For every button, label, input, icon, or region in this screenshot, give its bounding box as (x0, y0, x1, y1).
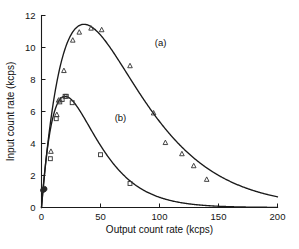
data-point-square (48, 157, 52, 161)
data-point-triangle (180, 151, 185, 155)
data-point-triangle (62, 68, 67, 72)
x-axis-title: Output count rate (kcps) (106, 224, 213, 235)
x-tick-label: 200 (270, 211, 286, 222)
chart-figure: 050100150200 024681012 (a)(b) Output cou… (0, 0, 299, 249)
x-tick-label: 100 (152, 211, 168, 222)
y-tick-labels: 024681012 (25, 10, 36, 213)
data-point-triangle (128, 63, 133, 67)
data-point-triangle (49, 149, 54, 153)
data-markers (41, 26, 209, 193)
data-point-triangle (55, 112, 60, 116)
plot-canvas: 050100150200 024681012 (a)(b) Output cou… (0, 0, 299, 249)
x-tick-label: 50 (95, 211, 106, 222)
data-point-triangle (99, 27, 104, 31)
curve-b (42, 96, 278, 207)
series-label-b: (b) (115, 112, 127, 123)
data-point-triangle (77, 30, 82, 34)
y-tick-label: 8 (30, 74, 35, 85)
series-annotations: (a)(b) (115, 37, 167, 123)
x-tick-label: 150 (211, 211, 227, 222)
data-point-triangle (191, 163, 196, 167)
x-tick-labels: 050100150200 (39, 211, 286, 222)
data-point-triangle (70, 38, 75, 42)
data-point-triangle (204, 177, 209, 181)
y-tick-label: 0 (30, 202, 35, 213)
fitted-curves (42, 24, 278, 207)
x-tick-label: 0 (39, 211, 44, 222)
curve-a (42, 24, 278, 207)
data-point-cluster (43, 187, 47, 191)
y-tick-label: 12 (25, 10, 36, 21)
y-tick-label: 4 (30, 138, 35, 149)
y-tick-label: 6 (30, 106, 35, 117)
data-point-square (54, 117, 58, 121)
data-point-square (99, 153, 103, 157)
y-tick-label: 10 (25, 42, 36, 53)
series-label-a: (a) (155, 37, 167, 48)
y-tick-label: 2 (30, 170, 35, 181)
data-point-triangle (163, 140, 168, 144)
y-axis-title: Input count rate (kcps) (5, 62, 16, 162)
